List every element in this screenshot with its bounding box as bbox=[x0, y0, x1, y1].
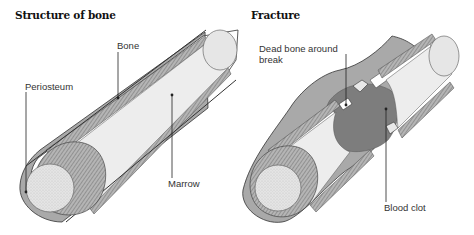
fracture-title: Fracture bbox=[251, 9, 300, 21]
label-periosteum: Periosteum bbox=[25, 81, 73, 92]
label-bone: Bone bbox=[117, 40, 139, 51]
blood-clot-leader-dot bbox=[385, 108, 388, 111]
fracture-bone-far-end bbox=[429, 36, 459, 76]
fracture-marrow-cross-section bbox=[255, 165, 301, 211]
periosteum-leader-dot bbox=[25, 191, 28, 194]
bone-structure-illustration bbox=[20, 30, 238, 222]
marrow-leader-dot bbox=[171, 94, 174, 97]
bone-far-end bbox=[203, 30, 237, 70]
label-dead-bone-line2: break bbox=[259, 54, 283, 65]
label-blood-clot: Blood clot bbox=[384, 202, 426, 213]
label-marrow: Marrow bbox=[168, 178, 200, 189]
label-dead-bone-line1: Dead bone around bbox=[259, 43, 338, 54]
bone-leader-dot bbox=[117, 97, 120, 100]
bone-diagram bbox=[0, 0, 474, 235]
structure-title: Structure of bone bbox=[15, 9, 116, 21]
dead-bone-leader-dot bbox=[345, 104, 348, 107]
marrow-cross-section bbox=[26, 164, 74, 212]
